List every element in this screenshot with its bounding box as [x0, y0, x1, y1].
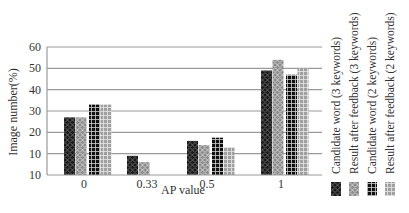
y-tick-label: 10 [29, 147, 41, 161]
bar [89, 105, 100, 175]
bar [224, 147, 235, 175]
bar [261, 70, 272, 175]
y-tick-label: 20 [29, 125, 41, 139]
legend-swatch [331, 182, 341, 196]
y-axis-title: Image number(%) [6, 68, 20, 156]
bar [273, 60, 284, 175]
x-axis-title: AP value [161, 183, 205, 197]
y-tick-label: 60 [29, 40, 41, 54]
bar [76, 117, 87, 175]
bar [187, 141, 198, 175]
x-tick-label: 0 [81, 177, 87, 191]
y-tick-label: 30 [29, 104, 41, 118]
bars [64, 60, 309, 175]
legend-swatch [385, 182, 395, 196]
bar [139, 162, 150, 175]
bar [64, 117, 75, 175]
y-tick-label: 10 [29, 168, 41, 182]
legend: Candidate word (3 keywords)Result after … [330, 12, 397, 196]
y-tick-label: 40 [29, 83, 41, 97]
legend-label: Result after feedback (3 keywords) [348, 12, 361, 174]
legend-swatch [367, 182, 377, 196]
bar [212, 138, 223, 175]
x-tick-label: 0.33 [137, 177, 158, 191]
bar [199, 145, 210, 175]
bar [286, 75, 297, 175]
bar [127, 156, 138, 175]
legend-label: Candidate word (2 keywords) [366, 37, 379, 174]
y-tick-labels: 10102030405060 [29, 40, 41, 182]
bar [298, 68, 309, 175]
legend-label: Result after feedback (2 keywords) [384, 12, 397, 174]
x-tick-label: 1 [278, 177, 284, 191]
y-tick-label: 50 [29, 61, 41, 75]
legend-label: Candidate word (3 keywords) [330, 37, 343, 174]
legend-swatch [349, 182, 359, 196]
bar [101, 105, 112, 175]
bar-chart: 10102030405060 00.330.51 AP value Image … [0, 0, 409, 213]
